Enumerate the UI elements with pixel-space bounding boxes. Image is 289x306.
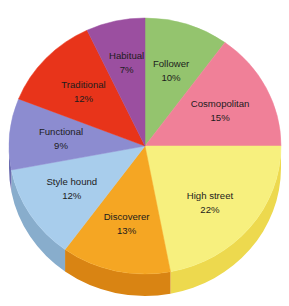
slice-value-cosmopolitan: 15% (211, 112, 231, 123)
slice-label-high-street: High street (187, 190, 234, 201)
pie-chart-canvas: Follower10%Cosmopolitan15%High street22%… (0, 0, 289, 306)
pie-chart: Follower10%Cosmopolitan15%High street22%… (0, 0, 289, 306)
slice-value-habitual: 7% (120, 64, 134, 75)
slice-label-follower: Follower (153, 58, 190, 69)
slice-value-discoverer: 13% (117, 225, 137, 236)
slice-value-traditional: 12% (74, 93, 94, 104)
slice-value-functional: 9% (54, 140, 68, 151)
slice-value-follower: 10% (161, 72, 181, 83)
slice-label-style-hound: Style hound (46, 176, 97, 187)
slice-value-style-hound: 12% (62, 190, 82, 201)
slice-label-functional: Functional (39, 126, 83, 137)
slice-label-discoverer: Discoverer (104, 211, 151, 222)
slice-value-high-street: 22% (200, 204, 220, 215)
slice-label-habitual: Habitual (109, 50, 144, 61)
slice-label-traditional: Traditional (61, 79, 105, 90)
slice-label-cosmopolitan: Cosmopolitan (191, 98, 250, 109)
pie-top-face-group (9, 18, 281, 274)
